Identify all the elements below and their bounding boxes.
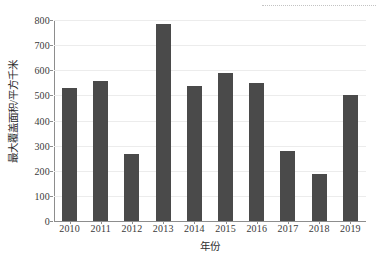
bar[interactable] [124, 154, 139, 221]
x-axis-tick-label: 2010 [54, 223, 85, 234]
y-axis-tick-label: 300 [34, 140, 50, 151]
y-axis-tick-label: 100 [34, 190, 50, 201]
y-axis-tick-label: 600 [34, 65, 50, 76]
x-axis-tick-label: 2015 [210, 223, 241, 234]
plot-area [54, 20, 366, 221]
x-axis-tick-label: 2012 [116, 223, 147, 234]
y-axis-tick-mark [50, 95, 53, 96]
bar-slot [116, 20, 147, 221]
bar[interactable] [93, 81, 108, 221]
bar-slot [148, 20, 179, 221]
x-axis-tick-mark [163, 221, 164, 224]
bar-slot [304, 20, 335, 221]
bar[interactable] [156, 24, 171, 221]
x-axis-tick-label: 2016 [241, 223, 272, 234]
x-axis-title: 年份 [54, 238, 366, 253]
y-axis-tick-mark [50, 70, 53, 71]
y-axis-tick-mark [50, 221, 53, 222]
x-axis-tick-mark [288, 221, 289, 224]
chart-figure: 0100200300400500600700800 20102011201220… [0, 0, 376, 262]
y-axis-tick-label: 800 [34, 15, 50, 26]
x-axis-tick-label: 2017 [272, 223, 303, 234]
y-axis-tick-mark [50, 196, 53, 197]
bar[interactable] [187, 86, 202, 221]
bar[interactable] [62, 88, 77, 221]
x-axis-tick-label: 2019 [335, 223, 366, 234]
dotted-rule-decoration [262, 5, 376, 8]
x-axis-tick-label: 2013 [148, 223, 179, 234]
x-axis-tick-mark [70, 221, 71, 224]
y-axis-tick-mark [50, 146, 53, 147]
x-axis-tick-labels: 2010201120122013201420152016201720182019 [54, 223, 366, 239]
y-axis-title: 最大覆盖面积/平方千米 [5, 22, 20, 202]
bar-slot [335, 20, 366, 221]
x-axis-tick-mark [194, 221, 195, 224]
x-axis-tick-mark [132, 221, 133, 224]
y-axis-tick-mark [50, 45, 53, 46]
bar-slot [210, 20, 241, 221]
y-axis-tick-label: 500 [34, 90, 50, 101]
x-axis-tick-label: 2018 [304, 223, 335, 234]
bar-slot [272, 20, 303, 221]
bar-slot [241, 20, 272, 221]
bar-slot [54, 20, 85, 221]
y-axis-tick-mark [50, 171, 53, 172]
y-axis-tick-label: 700 [34, 40, 50, 51]
bar[interactable] [249, 83, 264, 221]
x-axis-tick-mark [226, 221, 227, 224]
x-axis-tick-label: 2014 [179, 223, 210, 234]
y-axis-tick-label: 200 [34, 165, 50, 176]
x-axis-tick-mark [350, 221, 351, 224]
x-axis-tick-mark [319, 221, 320, 224]
y-axis-tick-mark [50, 121, 53, 122]
bar[interactable] [343, 95, 358, 221]
x-axis-tick-mark [257, 221, 258, 224]
bar[interactable] [218, 73, 233, 221]
bar-slot [85, 20, 116, 221]
x-axis-tick-label: 2011 [85, 223, 116, 234]
bar[interactable] [312, 174, 327, 221]
bar-slot [179, 20, 210, 221]
x-axis-tick-mark [101, 221, 102, 224]
y-axis-tick-label: 400 [34, 115, 50, 126]
bar[interactable] [280, 151, 295, 221]
y-axis-tick-mark [50, 20, 53, 21]
